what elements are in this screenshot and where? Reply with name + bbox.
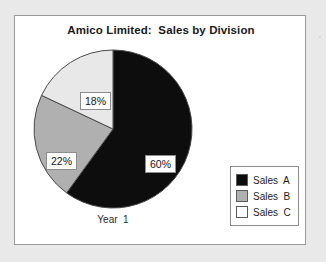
pie-value-label-sales-a: 60% <box>145 155 176 173</box>
chart-legend: Sales A Sales B Sales C <box>230 166 299 226</box>
legend-label-sales-a: Sales A <box>253 175 290 186</box>
pie-svg <box>33 49 193 209</box>
scan-artifact-speck <box>319 36 321 38</box>
legend-item-sales-c[interactable]: Sales C <box>236 204 291 220</box>
category-label: Year 1 <box>73 214 153 225</box>
legend-label-sales-b: Sales B <box>253 191 290 202</box>
pie-value-label-sales-b: 22% <box>46 152 77 170</box>
legend-swatch-sales-c <box>236 206 248 218</box>
chart-figure: Amico Limited: Sales by Division 60% 22%… <box>0 0 326 262</box>
plot-area: 60% 22% 18% Year 1 Sales A Sales B Sales… <box>15 16 307 246</box>
pie-value-label-sales-c: 18% <box>80 92 111 110</box>
legend-swatch-sales-b <box>236 190 248 202</box>
chart-panel: Amico Limited: Sales by Division 60% 22%… <box>14 15 306 245</box>
legend-swatch-sales-a <box>236 174 248 186</box>
legend-label-sales-c: Sales C <box>253 207 291 218</box>
legend-item-sales-b[interactable]: Sales B <box>236 188 291 204</box>
pie-chart <box>33 49 193 209</box>
legend-item-sales-a[interactable]: Sales A <box>236 172 291 188</box>
